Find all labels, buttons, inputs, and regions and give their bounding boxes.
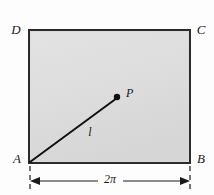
rectangle-inner-shade	[31, 32, 188, 161]
dimension-label-2pi: 2π	[104, 172, 117, 186]
vertex-label-B: B	[197, 151, 205, 166]
vertex-label-D: D	[10, 22, 21, 37]
point-label-P: P	[125, 86, 134, 100]
vertex-label-A: A	[12, 151, 21, 166]
dimension-arrowhead-right-icon	[180, 177, 190, 185]
geometry-figure: D C A B P l 2π	[0, 0, 214, 195]
point-P-marker	[114, 94, 120, 100]
dimension-arrowhead-left-icon	[30, 177, 40, 185]
vertex-label-C: C	[197, 22, 206, 37]
figure-canvas: D C A B P l 2π	[0, 0, 214, 195]
